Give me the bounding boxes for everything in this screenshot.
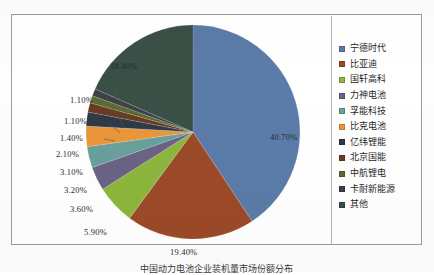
- legend-item-label: 孚能科技: [350, 107, 386, 116]
- legend-item-label: 北京国能: [350, 153, 386, 162]
- legend-color-swatch: [339, 155, 345, 161]
- figure-caption: 中国动力电池企业装机量市场份额分布: [11, 262, 422, 275]
- legend-color-swatch: [339, 61, 345, 67]
- legend-item-label: 力神电池: [350, 91, 386, 100]
- pie-value-label: 3.20%: [64, 185, 87, 195]
- legend-item-label: 比亚迪: [350, 60, 377, 69]
- legend-item-label: 亿纬锂能: [350, 138, 386, 147]
- pie-value-label: 18.40%: [110, 61, 137, 71]
- legend-item[interactable]: 孚能科技: [339, 103, 421, 119]
- legend-color-swatch: [339, 139, 345, 145]
- pie-value-label: 2.10%: [56, 149, 79, 159]
- pie-chart-area: 40.70%19.40%5.90%3.60%3.20%3.10%2.10%1.4…: [12, 15, 332, 244]
- legend-item[interactable]: 比亚迪: [339, 57, 421, 73]
- legend-item[interactable]: 国轩高科: [339, 72, 421, 88]
- legend-item-label: 其他: [350, 200, 368, 209]
- legend-item[interactable]: 亿纬锂能: [339, 135, 421, 151]
- pie-value-label: 5.90%: [84, 227, 107, 237]
- legend-divider: [331, 16, 332, 245]
- pie-value-label: 40.70%: [270, 132, 297, 142]
- legend-color-swatch: [339, 171, 345, 177]
- chart-frame: 40.70%19.40%5.90%3.60%3.20%3.10%2.10%1.4…: [11, 14, 422, 245]
- legend-item-label: 国轩高科: [350, 75, 386, 84]
- legend-item-label: 卡耐新能源: [350, 185, 395, 194]
- legend-color-swatch: [339, 108, 345, 114]
- legend-item[interactable]: 其他: [339, 197, 421, 213]
- chart-legend: 宁德时代比亚迪国轩高科力神电池孚能科技比克电池亿纬锂能北京国能中航锂电卡耐新能源…: [339, 41, 421, 213]
- legend-color-swatch: [339, 46, 345, 52]
- legend-item-label: 比克电池: [350, 122, 386, 131]
- legend-item[interactable]: 力神电池: [339, 88, 421, 104]
- legend-item[interactable]: 卡耐新能源: [339, 181, 421, 197]
- legend-color-swatch: [339, 77, 345, 83]
- legend-item[interactable]: 北京国能: [339, 150, 421, 166]
- legend-item[interactable]: 比克电池: [339, 119, 421, 135]
- pie-value-label: 19.40%: [170, 247, 197, 257]
- legend-color-swatch: [339, 93, 345, 99]
- pie-value-label: 3.10%: [60, 167, 83, 177]
- legend-color-swatch: [339, 186, 345, 192]
- pie-value-label: 1.10%: [64, 116, 87, 126]
- legend-item-label: 中航锂电: [350, 169, 386, 178]
- pie-value-label: 3.60%: [70, 204, 93, 214]
- pie-chart-svg: [12, 15, 332, 244]
- pie-value-label: 1.40%: [60, 133, 83, 143]
- pie-slices: [86, 25, 300, 239]
- legend-color-swatch: [339, 202, 345, 208]
- legend-item-label: 宁德时代: [350, 44, 386, 53]
- pie-value-label: 1.10%: [70, 95, 93, 105]
- legend-item[interactable]: 宁德时代: [339, 41, 421, 57]
- legend-item[interactable]: 中航锂电: [339, 166, 421, 182]
- legend-color-swatch: [339, 124, 345, 130]
